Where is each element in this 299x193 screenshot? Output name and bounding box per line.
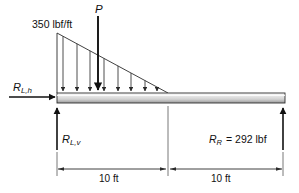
reaction-left-horizontal-label: RL,h — [13, 82, 32, 95]
beam-free-body-diagram: 350 lbf/ft P RL,h RL,v RR= 292 lbf 10 ft… — [0, 0, 299, 193]
beam-body — [57, 93, 285, 103]
distributed-load-arrows — [63, 36, 157, 91]
reaction-left-vertical-label: RL,v — [62, 134, 81, 147]
reaction-lh-subscript: L,h — [21, 86, 32, 95]
load-triangle-hypotenuse — [57, 33, 168, 93]
reaction-lh-symbol: R — [13, 81, 21, 93]
reaction-r-value: = 292 lbf — [226, 133, 267, 145]
distributed-load-label: 350 lbf/ft — [32, 19, 72, 30]
beam — [57, 93, 285, 103]
reaction-lv-subscript: L,v — [70, 138, 81, 147]
dimension-label-right: 10 ft — [211, 174, 230, 184]
reaction-r-symbol: R — [209, 133, 217, 145]
dimension-label-left: 10 ft — [99, 174, 118, 184]
reaction-right-label: RR= 292 lbf — [209, 134, 267, 146]
point-load-label: P — [95, 4, 103, 16]
distributed-load-triangle — [57, 33, 168, 93]
reaction-r-subscript: R — [217, 138, 222, 147]
reaction-lv-symbol: R — [62, 133, 70, 145]
